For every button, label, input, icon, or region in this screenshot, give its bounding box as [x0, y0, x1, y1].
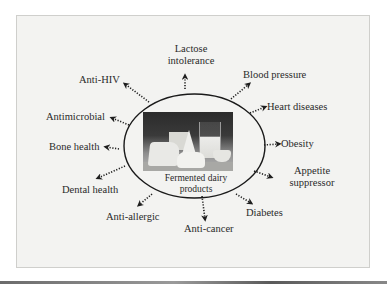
label-obesity: Obesity	[281, 138, 314, 150]
arrow-antimicrobial	[112, 118, 129, 125]
label-heart-diseases: Heart diseases	[267, 101, 327, 113]
arrow-blood-pressure	[231, 84, 249, 99]
arrow-anti-cancer	[202, 196, 205, 219]
center-caption: Fermented dairy products	[151, 173, 241, 195]
label-anti-cancer: Anti-cancer	[184, 223, 234, 235]
dairy-products-photo	[143, 112, 233, 171]
center-caption-line1: Fermented dairy	[151, 173, 241, 184]
label-anti-hiv: Anti-HIV	[79, 74, 120, 86]
label-blood-pressure: Blood pressure	[243, 69, 306, 81]
arrow-dental-health	[98, 166, 125, 178]
arrow-anti-allergic	[139, 194, 152, 205]
arrow-heart-diseases	[250, 107, 265, 113]
label-appetite-suppressor: Appetite suppressor	[282, 165, 342, 189]
label-dental-health: Dental health	[62, 184, 118, 196]
arrow-anti-hiv	[125, 84, 149, 102]
label-antimicrobial: Antimicrobial	[46, 111, 105, 123]
arrow-bone-health	[106, 147, 119, 149]
label-bone-health: Bone health	[49, 141, 99, 153]
label-diabetes: Diabetes	[246, 207, 283, 219]
label-anti-allergic: Anti-allergic	[106, 211, 159, 223]
arrow-obesity	[264, 144, 279, 145]
center-caption-line2: products	[151, 184, 241, 195]
arrow-diabetes	[236, 194, 251, 203]
label-lactose-intolerance: Lactose intolerance	[160, 43, 222, 67]
